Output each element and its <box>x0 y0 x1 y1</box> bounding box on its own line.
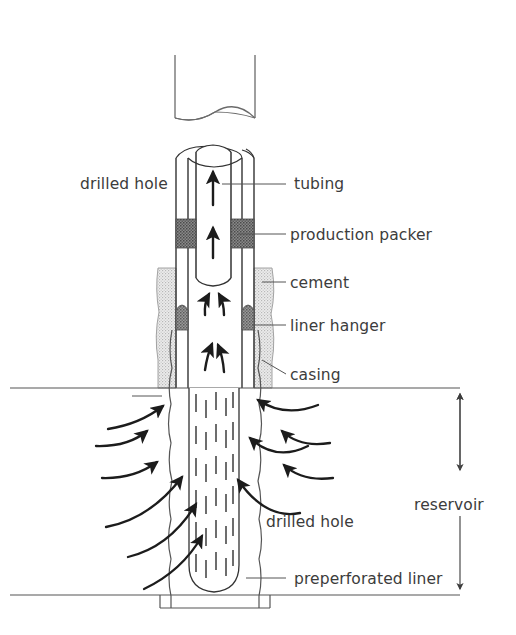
label-casing: casing <box>290 366 341 384</box>
inflow-arrows-left <box>96 406 202 589</box>
broken-pipe-top <box>175 55 255 120</box>
casing <box>176 146 254 388</box>
figure-canvas: drilled hole tubing production packer ce… <box>0 0 516 635</box>
label-production-packer: production packer <box>290 226 433 244</box>
label-liner-hanger: liner hanger <box>290 317 386 335</box>
label-cement: cement <box>290 274 349 292</box>
label-preperforated-liner: preperforated liner <box>294 570 443 588</box>
inflow-arrows-right <box>238 400 333 514</box>
flow-arrows-internal <box>205 172 224 372</box>
preperforated-liner <box>189 388 239 592</box>
label-tubing: tubing <box>294 175 344 193</box>
label-drilled-hole-upper: drilled hole <box>80 175 168 193</box>
label-drilled-hole-lower: drilled hole <box>266 513 354 531</box>
label-reservoir: reservoir <box>414 496 484 514</box>
tubing <box>196 145 231 286</box>
well-completion-diagram: drilled hole tubing production packer ce… <box>0 0 516 635</box>
